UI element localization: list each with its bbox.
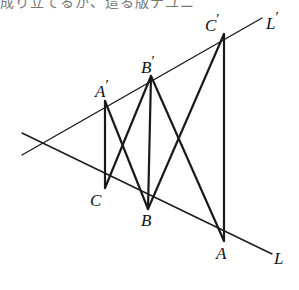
point-label-B: B [141,212,151,229]
segment-C-prime-B [148,34,224,209]
segment-B-prime-B [148,76,151,209]
segment-A-prime-B [105,101,148,209]
point-label-C-prime: C′ [205,12,220,34]
point-label-A: A [216,245,226,262]
line-L [22,133,272,254]
point-label-B-prime: B′ [141,54,155,76]
segment-B-prime-A [151,76,224,241]
point-label-C: C [90,192,101,209]
geometric-diagram [0,0,299,290]
point-label-A-prime: A′ [95,78,109,100]
segment-B-prime-C [105,76,151,188]
figure-page: 成り立てるか、這る版ナユニ C′ L′ B′ A′ C B [0,0,299,290]
line-L-prime [22,18,262,155]
line-label-L: L [274,250,283,267]
line-label-L-prime: L′ [266,10,279,32]
